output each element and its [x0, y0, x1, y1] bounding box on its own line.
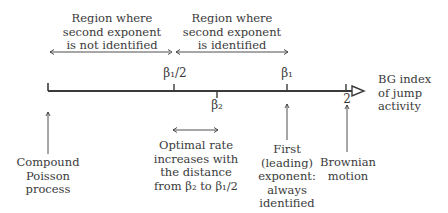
text-line: the distance	[150, 166, 242, 180]
tick-two: 2	[339, 93, 355, 107]
tick-beta2: β₂	[207, 99, 227, 113]
tick-beta1: β₁	[277, 67, 297, 81]
text-line: exponent:	[257, 170, 317, 184]
region-identified-label: Region where second exponent is identifi…	[182, 12, 282, 53]
text-line: process	[8, 183, 88, 197]
text-line: of jump	[378, 87, 431, 101]
text-line: Region where	[182, 12, 282, 26]
text-line: Region where	[62, 12, 162, 26]
text-line: (leading)	[257, 157, 317, 171]
text-line: First	[257, 143, 317, 157]
optimal-rate-label: Optimal rate increases with the distance…	[150, 139, 242, 193]
text-line: second exponent	[182, 26, 282, 40]
text-line: Brownian	[318, 156, 378, 170]
text-line: always	[257, 184, 317, 198]
brownian-motion-label: Brownian motion	[318, 156, 378, 183]
text-line: identified	[257, 197, 317, 211]
tick-beta1-half: β₁/2	[159, 67, 191, 81]
text-line: from β₂ to β₁/2	[150, 180, 242, 194]
text-line: Compound	[8, 156, 88, 170]
text-line: Optimal rate	[150, 139, 242, 153]
compound-poisson-label: Compound Poisson process	[8, 156, 88, 197]
text-line: BG index	[378, 73, 431, 87]
text-line: motion	[318, 170, 378, 184]
text-line: is not identified	[62, 39, 162, 53]
text-line: Poisson	[8, 170, 88, 184]
region-not-identified-label: Region where second exponent is not iden…	[62, 12, 162, 53]
text-line: is identified	[182, 39, 282, 53]
text-line: increases with	[150, 153, 242, 167]
text-line: activity	[378, 100, 431, 114]
axis-label: BG index of jump activity	[378, 73, 431, 114]
text-line: second exponent	[62, 26, 162, 40]
first-exponent-label: First (leading) exponent: always identif…	[257, 143, 317, 211]
